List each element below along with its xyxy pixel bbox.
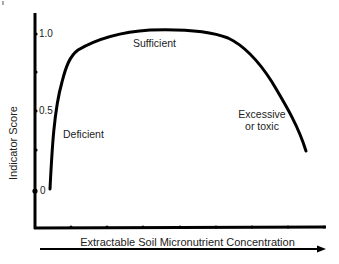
x-axis-label: Extractable Soil Micronutrient Concentra…	[60, 236, 315, 248]
y-axis-label-wrap: Indicator Score	[7, 170, 21, 264]
y-tick-label-1: 1.0	[39, 28, 53, 39]
y-tick-label-05: 0.5	[39, 105, 53, 116]
annotation-excessive: Excessive or toxic	[232, 108, 292, 132]
y-axis-label: Indicator Score	[7, 106, 19, 180]
annotation-excessive-line1: Excessive	[232, 108, 292, 120]
y-tick-label-0: 0	[40, 185, 46, 196]
annotation-deficient: Deficient	[63, 128, 104, 140]
x-arrow-head	[317, 246, 326, 253]
annotation-excessive-line2: or toxic	[232, 120, 292, 132]
annotation-sufficient: Sufficient	[133, 37, 176, 49]
